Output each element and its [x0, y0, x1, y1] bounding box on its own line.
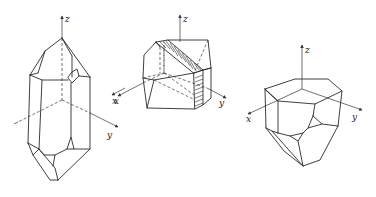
crystal-1: z x y: [14, 14, 125, 180]
z-axis-label: z: [182, 14, 188, 24]
crystal-3: z x y: [246, 45, 362, 166]
y-axis-label: y: [106, 130, 113, 140]
y-axis-label: y: [218, 98, 225, 108]
z-axis-label: z: [64, 14, 70, 24]
x-axis-label: x: [246, 114, 251, 124]
x-axis-label: x: [114, 96, 119, 106]
z-axis-label: z: [304, 45, 310, 55]
crystal-2: z x y: [114, 14, 226, 109]
y-axis-label: y: [351, 112, 358, 122]
crystal-figure: z x y: [0, 0, 376, 197]
